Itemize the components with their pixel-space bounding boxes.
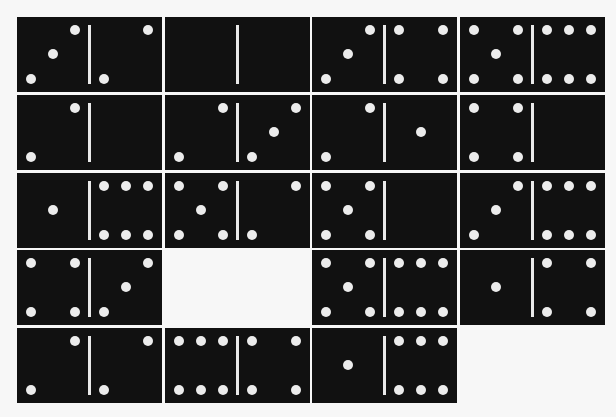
domino-tile-1-4[interactable]: [460, 250, 605, 325]
left-half: [312, 250, 384, 325]
pip-icon: [174, 181, 184, 191]
pip-icon: [321, 230, 331, 240]
domino-tile-3-4[interactable]: [312, 17, 457, 92]
pip-icon: [394, 385, 404, 395]
pip-icon: [542, 74, 552, 84]
pip-icon: [564, 25, 574, 35]
pip-icon: [416, 127, 426, 137]
pip-icon: [416, 307, 426, 317]
pip-icon: [321, 181, 331, 191]
pip-icon: [343, 205, 353, 215]
pip-icon: [394, 258, 404, 268]
pip-icon: [99, 181, 109, 191]
domino-tile-5-6[interactable]: [460, 17, 605, 92]
pip-icon: [174, 336, 184, 346]
domino-tile-3-6[interactable]: [460, 173, 605, 248]
pip-icon: [542, 25, 552, 35]
pip-icon: [438, 307, 448, 317]
pip-icon: [247, 152, 257, 162]
pip-icon: [70, 103, 80, 113]
pip-icon: [26, 74, 36, 84]
pip-icon: [586, 181, 596, 191]
pip-icon: [121, 282, 131, 292]
domino-tile-5-2[interactable]: [165, 173, 310, 248]
domino-tile-4-3[interactable]: [17, 250, 162, 325]
pip-icon: [394, 307, 404, 317]
pip-icon: [542, 307, 552, 317]
pip-icon: [365, 258, 375, 268]
pip-icon: [196, 336, 206, 346]
left-half: [17, 328, 89, 403]
pip-icon: [564, 74, 574, 84]
pip-icon: [513, 181, 523, 191]
pip-icon: [26, 152, 36, 162]
right-half: [533, 173, 605, 248]
right-half: [238, 17, 310, 92]
domino-tile-5-6[interactable]: [312, 250, 457, 325]
pip-icon: [491, 205, 501, 215]
pip-icon: [343, 360, 353, 370]
left-half: [312, 17, 384, 92]
pip-icon: [196, 205, 206, 215]
domino-tile-1-6[interactable]: [17, 173, 162, 248]
empty-slot: [165, 250, 310, 325]
domino-tile-1-6[interactable]: [312, 328, 457, 403]
domino-tile-3-2[interactable]: [17, 17, 162, 92]
right-half: [238, 173, 310, 248]
domino-tile-6-4[interactable]: [165, 328, 310, 403]
pip-icon: [542, 181, 552, 191]
pip-icon: [291, 336, 301, 346]
domino-tile-0-0[interactable]: [165, 17, 310, 92]
domino-tile-2-2[interactable]: [17, 328, 162, 403]
pip-icon: [218, 181, 228, 191]
right-half: [90, 250, 162, 325]
domino-tile-2-3[interactable]: [165, 95, 310, 170]
right-half: [90, 95, 162, 170]
pip-icon: [586, 25, 596, 35]
pip-icon: [438, 336, 448, 346]
pip-icon: [143, 258, 153, 268]
pip-icon: [394, 74, 404, 84]
pip-icon: [269, 127, 279, 137]
domino-tile-2-1[interactable]: [312, 95, 457, 170]
pip-icon: [416, 336, 426, 346]
pip-icon: [247, 385, 257, 395]
pip-icon: [174, 385, 184, 395]
pip-icon: [365, 307, 375, 317]
domino-tile-5-0[interactable]: [312, 173, 457, 248]
pip-icon: [513, 74, 523, 84]
pip-icon: [513, 25, 523, 35]
right-half: [533, 250, 605, 325]
pip-icon: [586, 307, 596, 317]
pip-icon: [48, 49, 58, 59]
pip-icon: [121, 230, 131, 240]
right-half: [238, 328, 310, 403]
left-half: [165, 328, 237, 403]
domino-tile-2-0[interactable]: [17, 95, 162, 170]
pip-icon: [365, 25, 375, 35]
pip-icon: [491, 49, 501, 59]
right-half: [385, 250, 457, 325]
empty-slot: [460, 328, 605, 403]
right-half: [385, 173, 457, 248]
pip-icon: [469, 230, 479, 240]
pip-icon: [99, 74, 109, 84]
pip-icon: [48, 205, 58, 215]
pip-icon: [26, 258, 36, 268]
pip-icon: [174, 230, 184, 240]
pip-icon: [70, 258, 80, 268]
pip-icon: [469, 74, 479, 84]
pip-icon: [26, 385, 36, 395]
pip-icon: [121, 181, 131, 191]
pip-icon: [143, 230, 153, 240]
pip-icon: [586, 230, 596, 240]
left-half: [312, 328, 384, 403]
pip-icon: [99, 307, 109, 317]
left-half: [165, 17, 237, 92]
pip-icon: [143, 336, 153, 346]
right-half: [238, 95, 310, 170]
left-half: [460, 95, 532, 170]
pip-icon: [438, 385, 448, 395]
domino-tile-4-0[interactable]: [460, 95, 605, 170]
pip-icon: [174, 152, 184, 162]
